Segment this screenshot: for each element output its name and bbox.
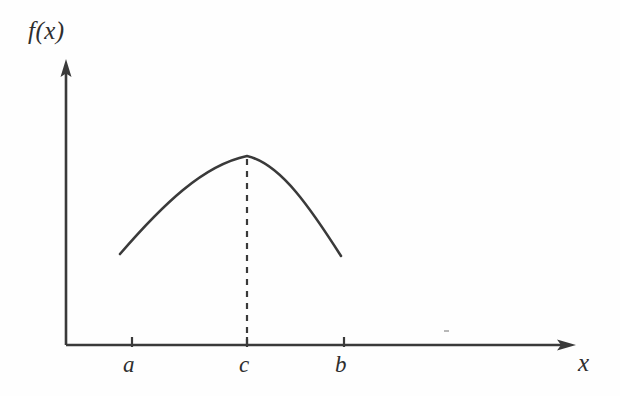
tick-label-c: c <box>239 352 249 378</box>
tick-label-a: a <box>123 352 135 378</box>
graph-svg <box>0 0 620 396</box>
function-curve <box>120 156 341 256</box>
figure-canvas: f(x) x a c b <box>0 0 620 396</box>
scan-speck <box>444 330 449 332</box>
x-axis-label: x <box>578 349 590 377</box>
tick-label-b: b <box>335 352 347 378</box>
y-axis-label: f(x) <box>28 17 65 45</box>
